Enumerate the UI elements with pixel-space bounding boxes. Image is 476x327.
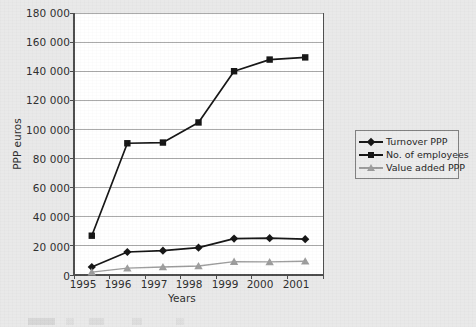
legend-label: Value added PPP: [386, 162, 465, 173]
legend-label: No. of employees: [386, 149, 469, 160]
plot-background: [74, 13, 323, 275]
legend-item-value-added: Value added PPP: [359, 161, 454, 174]
square-marker-icon: [359, 149, 383, 160]
chart-legend: Turnover PPP No. of employees Value adde…: [355, 130, 459, 179]
legend-item-turnover: Turnover PPP: [359, 135, 454, 148]
legend-item-employees: No. of employees: [359, 148, 454, 161]
legend-label: Turnover PPP: [386, 136, 448, 147]
diamond-marker-icon: [359, 136, 383, 147]
chart-figure: PPP euros Years 180 000 160 000 140 000 …: [0, 0, 476, 327]
triangle-marker-icon: [359, 162, 383, 173]
